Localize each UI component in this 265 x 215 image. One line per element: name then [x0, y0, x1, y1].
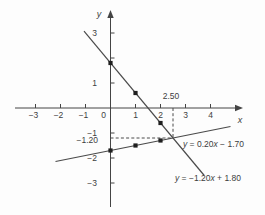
data-point-marker: [108, 61, 112, 65]
y-tick-label: 3: [92, 28, 97, 38]
x-axis-arrow: [235, 105, 243, 111]
equation-label: y = 0.20x − 1.70: [182, 139, 244, 149]
x-tick-label: 2: [158, 110, 163, 120]
x-tick-label: 1: [133, 110, 138, 120]
x-tick-label: 3: [183, 110, 188, 120]
x-axis-label: x: [237, 115, 243, 125]
graph-canvas: xy−3−2−1123431−1−2−302.50−1.20y = −1.20x…: [0, 0, 265, 215]
intersection-y-label: −1.20: [76, 135, 98, 145]
y-tick-label: 1: [92, 78, 97, 88]
x-tick-label: −1: [79, 110, 89, 120]
data-point-marker: [133, 143, 137, 147]
series-line: [84, 31, 204, 175]
y-tick-label: −3: [87, 178, 97, 188]
equation-label: y = −1.20x + 1.80: [174, 173, 241, 183]
y-axis-arrow: [107, 10, 113, 18]
origin-label: 0: [101, 110, 106, 120]
y-axis-label: y: [96, 9, 102, 19]
figure-container: xy−3−2−1123431−1−2−302.50−1.20y = −1.20x…: [0, 0, 265, 215]
data-point-marker: [133, 91, 137, 95]
x-tick-label: −3: [29, 110, 39, 120]
x-tick-label: −2: [54, 110, 64, 120]
intersection-x-label: 2.50: [163, 91, 180, 101]
data-point-marker: [158, 121, 162, 125]
data-point-marker: [158, 138, 162, 142]
data-point-marker: [108, 148, 112, 152]
x-tick-label: 4: [208, 110, 213, 120]
